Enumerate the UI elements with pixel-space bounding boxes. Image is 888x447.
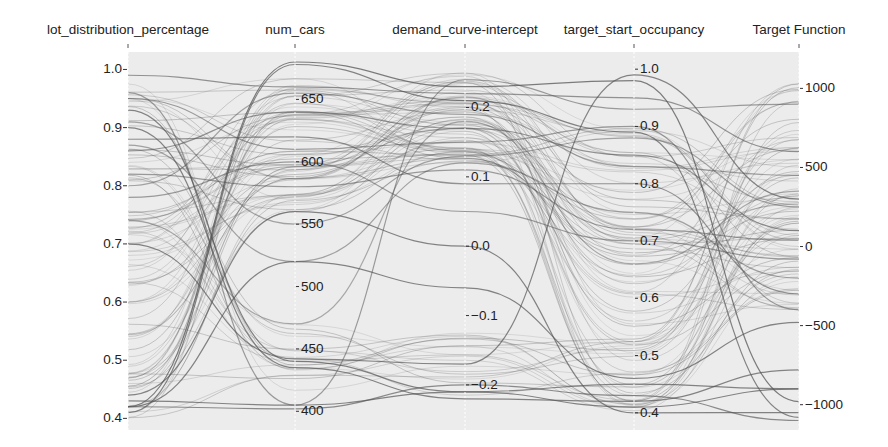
tick-label: 0.6 [103, 295, 122, 309]
tick-label: 0.4 [640, 406, 659, 420]
tick-label: 0.1 [471, 170, 490, 184]
parallel-coordinates-chart: lot_distribution_percentage1.00.90.80.70… [0, 0, 888, 447]
tick-label: 1.0 [103, 63, 122, 77]
tick-label: 0.2 [471, 101, 490, 115]
tick-label: 0.4 [103, 412, 122, 426]
tick-label: 500 [805, 161, 828, 175]
tick-label: 0.6 [640, 292, 659, 306]
tick-label: 600 [301, 155, 324, 169]
axis-title[interactable]: lot_distribution_percentage [47, 22, 209, 37]
axis-title[interactable]: Target Function [752, 22, 845, 37]
tick-label: 0 [805, 240, 813, 254]
tick-label: 550 [301, 217, 324, 231]
tick-label: 0.0 [471, 239, 490, 253]
tick-label: 0.5 [640, 349, 659, 363]
tick-label: 450 [301, 342, 324, 356]
tick-label: 650 [301, 93, 324, 107]
axis-title[interactable]: demand_curve-intercept [392, 22, 538, 37]
tick-label: 0.7 [640, 234, 659, 248]
tick-label: 0.5 [103, 353, 122, 367]
tick-label: 0.9 [640, 120, 659, 134]
tick-label: 500 [301, 280, 324, 294]
tick-label: −500 [805, 319, 835, 333]
tick-label: 0.8 [103, 179, 122, 193]
tick-label: 0.7 [103, 237, 122, 251]
axis-title[interactable]: target_start_occupancy [564, 22, 704, 37]
tick-label: 1000 [805, 82, 835, 96]
tick-label: −1000 [805, 398, 843, 412]
tick-label: −0.2 [471, 378, 498, 392]
tick-label: 0.8 [640, 177, 659, 191]
tick-label: −0.1 [471, 309, 498, 323]
tick-label: 0.9 [103, 121, 122, 135]
tick-label: 1.0 [640, 62, 659, 76]
tick-label: 400 [301, 405, 324, 419]
plot-area [0, 0, 888, 447]
plot-background [128, 52, 799, 430]
axis-title[interactable]: num_cars [265, 22, 324, 37]
